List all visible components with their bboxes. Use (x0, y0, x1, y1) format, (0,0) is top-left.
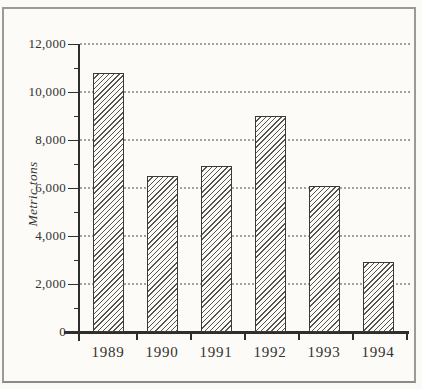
x-label-1992: 1992 (242, 343, 298, 361)
gridline-12000 (80, 43, 410, 45)
bar-1989 (93, 73, 124, 332)
bar-1993 (309, 186, 340, 332)
y-tick-label-2000: 2,000 (4, 276, 66, 292)
y-tick-label-10000: 10,000 (4, 84, 66, 100)
y-tick-label-8000: 8,000 (4, 132, 66, 148)
bar-1994 (363, 262, 394, 332)
bar-1992 (255, 116, 286, 332)
x-label-1991: 1991 (188, 343, 244, 361)
x-boundary-tick-0 (136, 332, 138, 340)
x-boundary-tick-4 (352, 332, 354, 340)
gridline-6000 (80, 187, 410, 189)
gridline-8000 (80, 139, 410, 141)
x-label-1989: 1989 (80, 343, 136, 361)
gridline-2000 (80, 283, 410, 285)
x-label-1993: 1993 (296, 343, 352, 361)
x-label-1990: 1990 (134, 343, 190, 361)
chart-frame: Metric tons 02,0004,0006,0008,00010,0001… (2, 7, 416, 383)
figure: Metric tons 02,0004,0006,0008,00010,0001… (0, 0, 422, 389)
y-tick-label-6000: 6,000 (4, 180, 66, 196)
gridline-4000 (80, 235, 410, 237)
x-boundary-tick-3 (298, 332, 300, 340)
y-tick-label-4000: 4,000 (4, 228, 66, 244)
x-boundary-tick-5 (406, 332, 408, 340)
x-label-1994: 1994 (350, 343, 406, 361)
y-tick-label-0: 0 (4, 324, 66, 340)
y-axis-line (78, 44, 80, 341)
bar-1990 (147, 176, 178, 332)
y-tick-label-12000: 12,000 (4, 36, 66, 52)
gridline-10000 (80, 91, 410, 93)
plot-area: 02,0004,0006,0008,00010,00012,0001989199… (4, 9, 414, 381)
x-boundary-tick-2 (244, 332, 246, 340)
bar-1991 (201, 166, 232, 332)
x-boundary-tick-1 (190, 332, 192, 340)
